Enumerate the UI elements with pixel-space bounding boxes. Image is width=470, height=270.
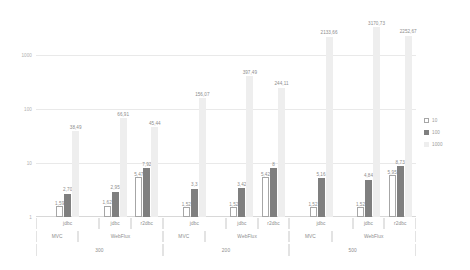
level1-group: 1,523,3156,071,523,42397,495,428244,11: [163, 22, 290, 217]
legend-swatch-icon: [424, 142, 429, 147]
legend-item[interactable]: 10: [424, 118, 443, 123]
category-group: 1,592,7038,49: [36, 22, 99, 217]
y-tick-label: 1: [0, 215, 32, 220]
bar: 2252,67: [405, 36, 412, 218]
bar: 8: [270, 168, 277, 217]
category-group: 1,525,162133,66: [289, 22, 352, 217]
chart-legend: 101001000: [424, 118, 443, 147]
y-tick-label: 10: [0, 160, 32, 165]
level1-group: 1,592,7038,491,622,9566,915,477,9245,44: [36, 22, 163, 217]
group-level2-label: WebFlux: [332, 230, 416, 243]
category-group: 5,958,732252,67: [384, 22, 416, 217]
bar-value-label: 5,42: [261, 172, 270, 177]
bar-value-label: 5,47: [134, 172, 143, 177]
bar-value-label: 1,52: [356, 202, 365, 207]
group-level2-label: MVC: [289, 230, 331, 243]
category-label: jdbc: [36, 217, 99, 230]
bar: 4,84: [365, 180, 372, 217]
bar-value-label: 397,49: [243, 70, 257, 75]
bar: 1,52: [230, 207, 237, 217]
category-label: jdbc: [163, 217, 226, 230]
bar: 1,52: [310, 207, 317, 217]
category-group: 1,622,9566,91: [99, 22, 131, 217]
legend-swatch-icon: [424, 118, 429, 123]
x-axis-labels: jdbcjdbcr2dbcjdbcjdbcr2dbcjdbcjdbcr2dbc …: [36, 217, 416, 267]
bar: 45,44: [151, 127, 158, 217]
bar: 3,42: [238, 188, 245, 217]
bar: 7,92: [143, 168, 150, 217]
legend-label: 1000: [432, 142, 443, 147]
level2-group: 1,524,843170,735,958,732252,67: [353, 22, 416, 217]
group-level2-label: WebFlux: [78, 230, 162, 243]
category-label: jdbc: [226, 217, 258, 230]
bar-value-label: 45,44: [149, 121, 161, 126]
bar-value-label: 1,52: [229, 202, 238, 207]
bar: 1,62: [104, 206, 111, 217]
bar-value-label: 156,07: [195, 92, 209, 97]
group-level2-label: MVC: [163, 230, 205, 243]
bar-value-label: 8,73: [396, 160, 405, 165]
plot-area: 1,592,7038,491,622,9566,915,477,9245,441…: [36, 22, 416, 217]
bar-value-label: 244,11: [275, 81, 289, 86]
group-level1-label: 500: [289, 243, 416, 257]
group-level2-label: MVC: [36, 230, 78, 243]
category-group: 1,523,3156,07: [163, 22, 226, 217]
bar-chart: 1,592,7038,491,622,9566,915,477,9245,441…: [0, 0, 470, 270]
bar: 3,3: [191, 189, 198, 217]
legend-item[interactable]: 100: [424, 130, 443, 135]
bar-value-label: 7,92: [142, 162, 151, 167]
bar: 2,95: [112, 192, 119, 217]
level2-group: 1,525,162133,66: [289, 22, 352, 217]
level2-group: 1,523,42397,495,428244,11: [226, 22, 289, 217]
bar: 5,95: [389, 175, 396, 217]
category-label: r2dbc: [384, 217, 416, 230]
bar: 1,59: [56, 206, 63, 217]
bar-value-label: 66,91: [117, 112, 129, 117]
category-label: jdbc: [99, 217, 131, 230]
bar-value-label: 1,59: [55, 201, 64, 206]
category-label: r2dbc: [131, 217, 163, 230]
group-level2-row: MVCWebFluxMVCWebFluxMVCWebFlux: [36, 230, 416, 243]
bar-value-label: 1,52: [308, 202, 317, 207]
group-level1-row: 300200500: [36, 243, 416, 257]
category-label-row: jdbcjdbcr2dbcjdbcjdbcr2dbcjdbcjdbcr2dbc: [36, 217, 416, 230]
bar: 1,52: [357, 207, 364, 217]
level2-group: 1,592,7038,49: [36, 22, 99, 217]
bar-value-label: 5,16: [316, 172, 325, 177]
bar-value-label: 2,70: [63, 187, 72, 192]
bar: 2,70: [64, 194, 71, 217]
bar: 38,49: [72, 131, 79, 217]
bar-groups: 1,592,7038,491,622,9566,915,477,9245,441…: [36, 22, 416, 217]
bar-value-label: 1,62: [103, 200, 112, 205]
category-group: 1,523,42397,49: [226, 22, 258, 217]
bar: 1,52: [183, 207, 190, 217]
bar: 5,47: [135, 177, 142, 217]
y-tick-label: 1000: [0, 52, 32, 57]
group-level2-label: WebFlux: [205, 230, 289, 243]
legend-label: 10: [432, 118, 437, 123]
level2-group: 1,523,3156,07: [163, 22, 226, 217]
y-tick-label: 100: [0, 106, 32, 111]
bar-value-label: 5,95: [388, 170, 397, 175]
bar-value-label: 3170,73: [368, 21, 385, 26]
group-level1-label: 200: [163, 243, 290, 257]
bar: 8,73: [397, 166, 404, 217]
legend-item[interactable]: 1000: [424, 142, 443, 147]
category-label: r2dbc: [258, 217, 290, 230]
level2-group: 1,622,9566,915,477,9245,44: [99, 22, 162, 217]
bar-value-label: 38,49: [70, 125, 82, 130]
bar-value-label: 3,42: [237, 182, 246, 187]
bar-value-label: 3,3: [191, 182, 198, 187]
legend-swatch-icon: [424, 130, 429, 135]
category-group: 5,428244,11: [258, 22, 290, 217]
bar-value-label: 2133,66: [321, 30, 338, 35]
legend-label: 100: [432, 130, 440, 135]
bar-value-label: 2,95: [111, 185, 120, 190]
bar: 2133,66: [326, 37, 333, 217]
category-label: jdbc: [289, 217, 352, 230]
category-group: 1,524,843170,73: [353, 22, 385, 217]
level1-group: 1,525,162133,661,524,843170,735,958,7322…: [289, 22, 416, 217]
bar-value-label: 4,84: [364, 173, 373, 178]
bar-value-label: 1,52: [182, 202, 191, 207]
category-group: 5,477,9245,44: [131, 22, 163, 217]
